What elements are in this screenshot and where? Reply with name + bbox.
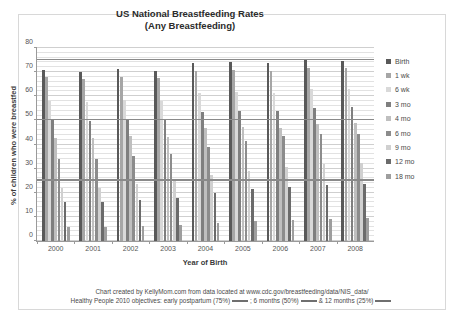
legend-swatch <box>386 131 391 136</box>
legend-item-6-mo[interactable]: 6 mo <box>386 126 456 140</box>
reference-line-25 <box>37 179 374 181</box>
footnote-hp-12mo: & 12 months (25%) <box>319 297 374 304</box>
plot-area: 01020304050607080 2000200120022003200420… <box>36 48 374 242</box>
x-tick-mark <box>37 241 38 244</box>
x-tick-label: 2008 <box>347 245 363 252</box>
reference-line-50 <box>37 119 374 121</box>
legend-label: 12 mo <box>395 158 414 165</box>
bar[interactable] <box>179 225 182 241</box>
x-tick-label: 2003 <box>160 245 176 252</box>
x-tick-label: 2000 <box>48 245 64 252</box>
footnote-line-1: Chart created by KellyMom.com from data … <box>22 288 442 297</box>
legend-item-18-mo[interactable]: 18 mo <box>386 169 456 183</box>
bar-group-2000: 2000 <box>37 48 74 241</box>
y-tick-label: 80 <box>25 38 33 45</box>
legend-item-12-mo[interactable]: 12 mo <box>386 155 456 169</box>
chart-title: US National Breastfeeding Rates (Any Bre… <box>0 8 380 32</box>
bar[interactable] <box>142 226 145 241</box>
legend-item-Birth[interactable]: Birth <box>386 54 456 68</box>
legend-swatch <box>386 159 391 164</box>
bar-groups: 200020012002200320042005200620072008 <box>37 48 374 241</box>
bar[interactable] <box>254 221 257 241</box>
legend-swatch <box>386 116 391 121</box>
x-tick-mark <box>187 241 188 244</box>
y-tick-label: 0 <box>29 231 33 238</box>
legend-label: Birth <box>395 58 409 65</box>
y-axis-title: % of children who were breastfed <box>8 48 20 242</box>
chart-footnote: Chart created by KellyMom.com from data … <box>22 288 442 305</box>
x-tick-label: 2004 <box>198 245 214 252</box>
legend-item-4-mo[interactable]: 4 mo <box>386 112 456 126</box>
reference-line-swatch-75 <box>232 300 248 302</box>
legend-swatch <box>386 145 391 150</box>
x-tick-mark <box>112 241 113 244</box>
y-tick-label: 60 <box>25 86 33 93</box>
x-tick-label: 2006 <box>273 245 289 252</box>
legend-label: 6 wk <box>395 86 409 93</box>
bar-group-2005: 2005 <box>224 48 261 241</box>
bar[interactable] <box>67 227 70 241</box>
bar[interactable] <box>366 218 369 241</box>
legend-item-1-wk[interactable]: 1 wk <box>386 68 456 82</box>
legend-label: 18 mo <box>395 173 414 180</box>
chart-title-main: US National Breastfeeding Rates <box>0 8 380 20</box>
y-tick-label: 70 <box>25 62 33 69</box>
legend-label: 9 mo <box>395 144 411 151</box>
footnote-line-2: Healthy People 2010 objectives: early po… <box>22 297 442 306</box>
chart-legend: Birth1 wk6 wk3 mo4 mo6 mo9 mo12 mo18 mo <box>386 54 456 184</box>
legend-label: 1 wk <box>395 72 409 79</box>
x-tick-label: 2005 <box>235 245 251 252</box>
legend-item-9-mo[interactable]: 9 mo <box>386 140 456 154</box>
legend-swatch <box>386 87 391 92</box>
bar[interactable] <box>104 227 107 241</box>
bar-group-2006: 2006 <box>262 48 299 241</box>
footnote-hp-postpartum: Healthy People 2010 objectives: early po… <box>71 297 231 304</box>
legend-swatch <box>386 73 391 78</box>
x-tick-mark <box>262 241 263 244</box>
legend-label: 3 mo <box>395 101 411 108</box>
x-tick-label: 2007 <box>310 245 326 252</box>
bar-group-2001: 2001 <box>74 48 111 241</box>
y-tick-label: 20 <box>25 182 33 189</box>
legend-swatch <box>386 174 391 179</box>
y-tick-label: 10 <box>25 206 33 213</box>
bar-group-2004: 2004 <box>187 48 224 241</box>
chart-subtitle: (Any Breastfeeding) <box>0 20 380 32</box>
reference-line-75 <box>37 59 374 61</box>
x-tick-mark <box>149 241 150 244</box>
bar-group-2008: 2008 <box>337 48 374 241</box>
plot-canvas: 01020304050607080 2000200120022003200420… <box>36 48 374 242</box>
legend-item-6-wk[interactable]: 6 wk <box>386 83 456 97</box>
reference-line-swatch-25 <box>375 300 391 302</box>
y-tick-label: 50 <box>25 110 33 117</box>
x-tick-mark <box>299 241 300 244</box>
legend-item-3-mo[interactable]: 3 mo <box>386 97 456 111</box>
legend-label: 4 mo <box>395 115 411 122</box>
legend-label: 6 mo <box>395 130 411 137</box>
bar[interactable] <box>292 220 295 241</box>
x-tick-label: 2002 <box>123 245 139 252</box>
y-tick-label: 40 <box>25 134 33 141</box>
x-axis-title: Year of Birth <box>36 258 374 267</box>
legend-swatch <box>386 102 391 107</box>
footnote-hp-6mo: ; 6 months (50%) <box>250 297 299 304</box>
x-tick-label: 2001 <box>85 245 101 252</box>
x-tick-mark <box>74 241 75 244</box>
x-tick-mark <box>337 241 338 244</box>
bar-group-2003: 2003 <box>149 48 186 241</box>
y-tick-label: 30 <box>25 158 33 165</box>
bar[interactable] <box>217 223 220 241</box>
bar-group-2007: 2007 <box>299 48 336 241</box>
legend-swatch <box>386 59 391 64</box>
x-tick-mark <box>224 241 225 244</box>
bar[interactable] <box>329 219 332 241</box>
bar-group-2002: 2002 <box>112 48 149 241</box>
reference-line-swatch-50 <box>301 300 317 302</box>
